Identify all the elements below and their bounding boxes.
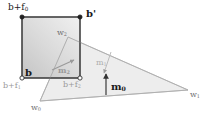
label-b-plus-f1: b+f1 [3, 82, 21, 90]
label-b: b [25, 68, 32, 78]
label-w2: w2 [57, 29, 67, 37]
label-m1: m1 [96, 59, 107, 67]
b-prime-vertex [78, 15, 82, 19]
label-w0: w0 [31, 104, 41, 112]
b-plus-f2-vertex [78, 76, 82, 80]
label-b-prime: b' [86, 9, 96, 19]
b-plus-f0-vertex [20, 15, 24, 19]
label-w1: w1 [190, 91, 200, 99]
label-b-plus-f2: b+f2 [63, 81, 81, 89]
b-vertex [20, 76, 24, 80]
label-m2: m2 [58, 66, 70, 75]
label-b-plus-f0: b+f0 [8, 3, 28, 13]
label-m0: m0 [111, 82, 126, 93]
